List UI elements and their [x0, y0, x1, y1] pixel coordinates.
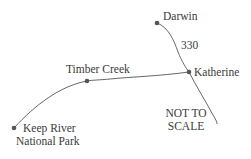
label-not-to: NOT TO	[161, 107, 211, 120]
label-scale: SCALE	[161, 120, 211, 133]
label-timber-creek: Timber Creek	[66, 63, 130, 76]
label-national-park: National Park	[16, 135, 80, 148]
dot-timber-creek	[85, 79, 90, 84]
label-keep-river: Keep River	[23, 122, 76, 135]
label-distance: 330	[181, 39, 198, 52]
dot-darwin	[155, 21, 160, 26]
label-darwin: Darwin	[163, 10, 198, 23]
dot-keep-river	[12, 126, 17, 131]
label-katherine: Katherine	[194, 66, 239, 79]
dot-katherine	[187, 70, 192, 75]
